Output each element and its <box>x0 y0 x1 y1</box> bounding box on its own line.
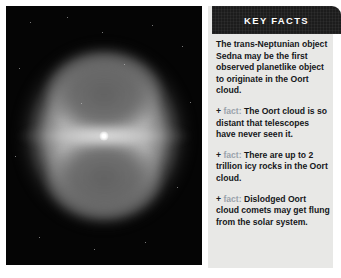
central-star <box>100 131 109 140</box>
nebula-lower-lobe <box>45 140 163 226</box>
nebula-photo <box>6 6 202 265</box>
background-star <box>152 25 153 26</box>
background-star <box>67 17 68 18</box>
fact-item: + fact: There are up to 2 trillion icy r… <box>216 150 330 185</box>
plus-icon: + <box>216 150 221 160</box>
background-star <box>19 68 20 69</box>
key-facts-header: KEY FACTS <box>212 6 341 34</box>
fact-label: fact: <box>223 194 241 204</box>
key-facts-title: KEY FACTS <box>244 15 309 26</box>
plus-icon: + <box>216 194 221 204</box>
background-star <box>145 242 146 243</box>
background-star <box>102 32 103 33</box>
background-star <box>39 237 40 238</box>
nebula-upper-lobe <box>45 46 163 132</box>
fact-label: fact: <box>223 150 241 160</box>
background-star <box>81 103 82 104</box>
background-star <box>124 64 125 65</box>
background-star <box>15 156 16 157</box>
background-star <box>182 46 183 47</box>
background-star <box>30 22 31 23</box>
background-star <box>177 187 178 188</box>
intro-paragraph: The trans-Neptunian object Sedna may be … <box>216 39 330 97</box>
plus-icon: + <box>216 106 221 116</box>
fact-item: + fact: The Oort cloud is so distant tha… <box>216 106 330 141</box>
key-facts-panel: KEY FACTS The trans-Neptunian object Sed… <box>208 6 333 268</box>
key-facts-body: The trans-Neptunian object Sedna may be … <box>216 39 330 264</box>
fact-label: fact: <box>223 106 241 116</box>
background-star <box>190 102 191 103</box>
fact-item: + fact: Dislodged Oort cloud comets may … <box>216 194 330 229</box>
background-star <box>94 249 95 250</box>
